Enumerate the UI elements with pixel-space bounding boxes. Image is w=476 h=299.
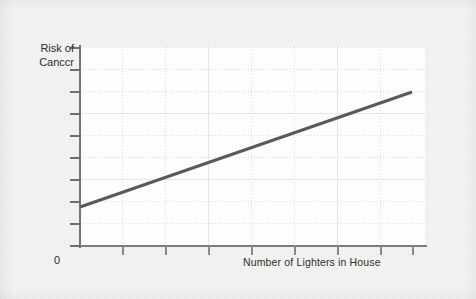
origin-label: 0	[54, 254, 60, 267]
x-axis-label: Number of Lighters in House	[243, 256, 381, 269]
chart-figure: Risk of Canccr Number of Lighters in Hou…	[0, 0, 476, 299]
scanned-page: Risk of Canccr Number of Lighters in Hou…	[0, 0, 476, 299]
y-axis-label: Risk of Canccr	[10, 42, 74, 69]
y-axis-label-line1: Risk of	[10, 42, 74, 56]
trend-line	[80, 92, 412, 207]
y-axis-label-line2: Canccr	[10, 56, 74, 70]
